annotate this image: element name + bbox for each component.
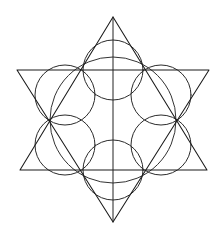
geometric-figure-canvas bbox=[0, 0, 224, 238]
canvas-background bbox=[0, 0, 224, 238]
